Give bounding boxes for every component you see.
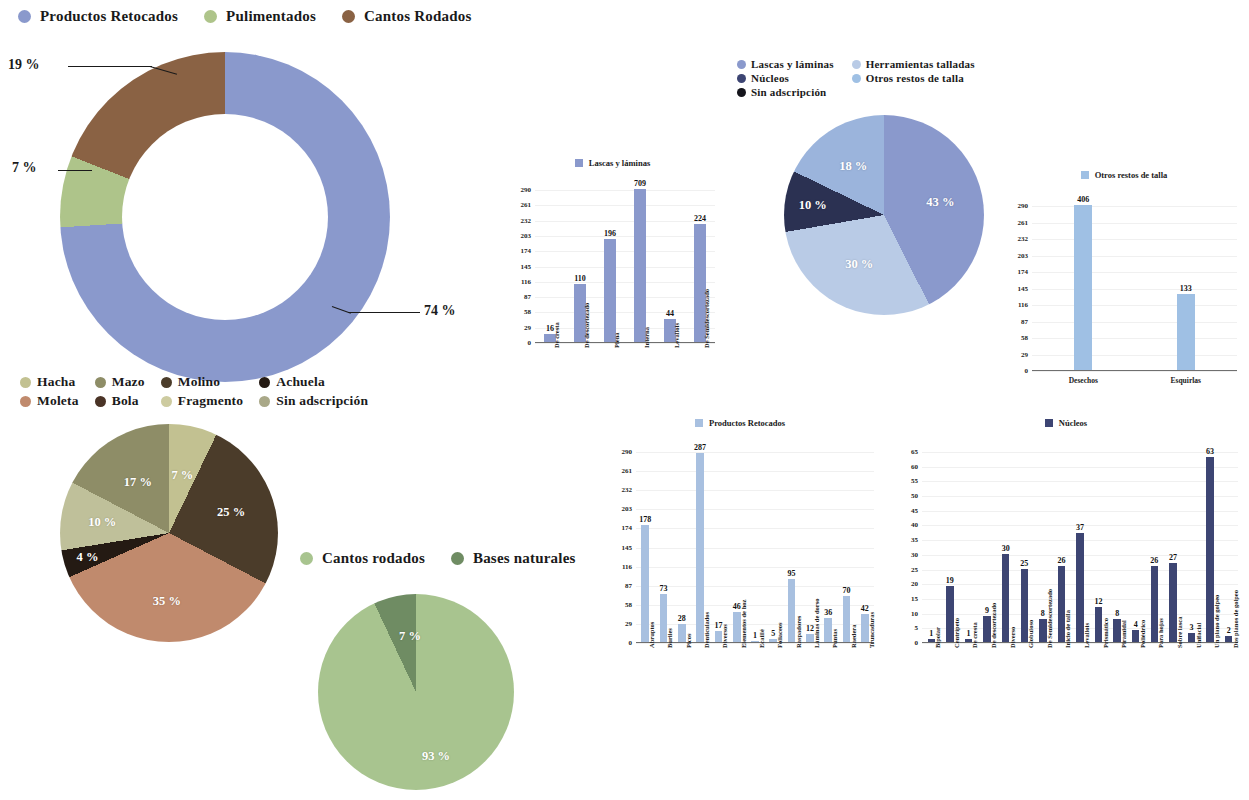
y-axis-tick: 174	[606, 524, 632, 532]
gridline	[636, 624, 874, 625]
gridline	[922, 643, 1238, 644]
x-axis-label: Raspadores	[795, 616, 802, 648]
legend-swatch-icon	[451, 552, 464, 565]
legend-polished-item: Mazo	[95, 374, 145, 390]
chart-pie-knapped: 43 %30 %10 %18 %	[784, 115, 984, 315]
x-axis-label: De cresta	[971, 622, 978, 648]
gridline	[535, 190, 715, 191]
x-axis-label: De descortezado	[990, 603, 997, 648]
series-swatch-icon	[1045, 419, 1053, 427]
bar-value-label: 63	[1206, 447, 1214, 456]
x-axis-label: Desechos	[1069, 376, 1098, 385]
legend-swatch-icon	[161, 377, 172, 388]
y-axis-tick: 58	[505, 308, 531, 316]
bar-value-label: 73	[659, 584, 667, 593]
legend-swatch-icon	[161, 396, 172, 407]
gridline	[1032, 305, 1237, 306]
legend-knapped-item: Herramientas talladas	[852, 58, 975, 70]
x-axis-label: Levallois	[673, 323, 680, 348]
bar-value-label: 25	[1020, 559, 1028, 568]
x-axis-label: Centrípeto	[953, 618, 960, 648]
chart-legend-retocados: Productos Retocados	[600, 418, 880, 428]
gridline	[1032, 371, 1237, 372]
bar-value-label: 30	[1002, 544, 1010, 553]
bar-value-label: 26	[1057, 556, 1065, 565]
y-axis-tick: 232	[1002, 235, 1028, 243]
x-axis-label: Unifacial	[1195, 623, 1202, 648]
series-swatch-icon	[695, 419, 703, 427]
pie-slice-label: 4 %	[77, 550, 99, 565]
x-axis-label: Plena	[613, 332, 620, 348]
legend-knapped-item: Otros restos de talla	[852, 72, 975, 84]
chart-legend-lascas: Lascas y láminas	[505, 158, 720, 168]
legend-materials-item: Pulimentados	[204, 8, 316, 25]
x-axis-label: Buriles	[666, 628, 673, 648]
gridline	[636, 548, 874, 549]
bar-value-label: 5	[771, 629, 775, 638]
y-axis-tick: 87	[505, 293, 531, 301]
legend-swatch-icon	[737, 88, 746, 97]
y-axis-tick: 10	[892, 610, 918, 618]
pie-slice-label: 25 %	[217, 505, 245, 520]
plot-area: 0295887116145174203232261290406Desechos1…	[1032, 206, 1237, 371]
legend-pebbles-item: Bases naturales	[451, 550, 576, 567]
x-axis-label: Sobre lasca	[1176, 617, 1183, 648]
y-axis-tick: 0	[606, 639, 632, 647]
gridline	[1032, 206, 1237, 207]
bar-value-label: 12	[1095, 597, 1103, 606]
y-axis-tick: 30	[892, 551, 918, 559]
donut-hole	[122, 114, 328, 320]
y-axis-tick: 25	[892, 566, 918, 574]
legend-swatch-icon	[737, 74, 746, 83]
bar-value-label: 4	[1134, 620, 1138, 629]
bar-value-label: 224	[694, 214, 706, 223]
y-axis-tick: 58	[1002, 334, 1028, 342]
y-axis-tick: 203	[606, 505, 632, 513]
bar-value-label: 110	[574, 274, 586, 283]
bar-value-label: 36	[824, 608, 832, 617]
legend-materials-item: Productos Retocados	[18, 8, 178, 25]
gridline	[535, 251, 715, 252]
x-axis-label: Ecaillé	[758, 629, 765, 648]
chart-title: Otros restos de talla	[1095, 170, 1168, 180]
y-axis-tick: 5	[892, 624, 918, 632]
bar-value-label: 2	[1227, 626, 1231, 635]
gridline	[535, 236, 715, 237]
x-axis-label: Diversos	[721, 624, 728, 648]
bar-value-label: 1	[929, 629, 933, 638]
y-axis-tick: 174	[505, 247, 531, 255]
gridline	[636, 509, 874, 510]
legend-materials: Productos RetocadosPulimentadosCantos Ro…	[18, 8, 497, 25]
donut-label-19: 19 %	[8, 57, 40, 73]
legend-swatch-icon	[18, 10, 31, 23]
gridline	[922, 467, 1238, 468]
bar-value-label: 406	[1077, 195, 1089, 204]
pie-body	[784, 115, 984, 315]
x-axis-label: Esquirlas	[1171, 376, 1201, 385]
gridline	[535, 205, 715, 206]
legend-pebbles: Cantos rodadosBases naturales	[300, 550, 602, 567]
gridline	[636, 471, 874, 472]
legend-polished-item: Fragmento	[161, 393, 244, 409]
y-axis-tick: 145	[1002, 285, 1028, 293]
y-axis-tick: 45	[892, 507, 918, 515]
gridline	[1032, 338, 1237, 339]
bar-value-label: 133	[1180, 284, 1192, 293]
pie-body	[60, 424, 278, 642]
donut-label-74: 74 %	[424, 303, 456, 319]
legend-swatch-icon	[20, 377, 31, 388]
y-axis-tick: 232	[606, 486, 632, 494]
gridline	[636, 586, 874, 587]
legend-polished-item: Molino	[161, 374, 244, 390]
chart-title: Productos Retocados	[709, 418, 785, 428]
chart-bar-nucleos: Núcleos 051015202530354045505560651Bipol…	[886, 418, 1246, 738]
gridline	[535, 267, 715, 268]
gridline	[636, 490, 874, 491]
y-axis-tick: 65	[892, 448, 918, 456]
pie-slice-label: 10 %	[799, 197, 827, 212]
plot-area: 051015202530354045505560651Bipolar19Cent…	[922, 452, 1238, 643]
y-axis-tick: 174	[1002, 268, 1028, 276]
y-axis-tick: 116	[606, 563, 632, 571]
bar-value-label: 8	[1041, 609, 1045, 618]
bar-value-label: 70	[843, 586, 851, 595]
